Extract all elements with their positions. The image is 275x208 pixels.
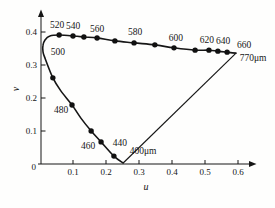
wavelength-label: 620 — [200, 35, 215, 45]
y-tick-label: 0.3 — [26, 60, 38, 70]
spectral-locus-curve — [43, 35, 236, 163]
wavelength-dot — [88, 128, 93, 133]
wavelength-label: 480 — [54, 105, 69, 115]
wavelength-label: 660 — [237, 40, 252, 50]
wavelength-dot — [56, 32, 61, 37]
x-tick-label: 0.5 — [199, 167, 211, 177]
wavelength-dot — [81, 34, 86, 39]
x-axis-title: u — [144, 181, 149, 192]
plot-layer: 0.10.20.30.40.50.60.10.20.30.40400μm4404… — [26, 10, 267, 177]
x-axis-arrow — [249, 161, 257, 167]
chromaticity-figure: 0.10.20.30.40.50.60.10.20.30.40400μm4404… — [0, 0, 275, 208]
x-tick-label: 0.6 — [232, 167, 244, 177]
x-tick-label: 0.1 — [67, 167, 78, 177]
wavelength-label: 540 — [66, 21, 81, 31]
x-tick-label: 0.3 — [133, 167, 145, 177]
wavelength-label: 500 — [51, 47, 66, 57]
wavelength-dot — [94, 35, 99, 40]
wavelength-dot — [192, 47, 197, 52]
y-tick-label: 0.2 — [26, 93, 37, 103]
wavelength-label: 580 — [128, 27, 143, 37]
wavelength-dot — [152, 42, 157, 47]
x-tick-label: 0.2 — [100, 167, 111, 177]
wavelength-dot — [131, 40, 136, 45]
wavelength-dot — [112, 38, 117, 43]
wavelength-label: 600 — [169, 33, 184, 43]
x-tick-label: 0.4 — [166, 167, 178, 177]
wavelength-dot — [50, 75, 55, 80]
wavelength-dot — [171, 45, 176, 50]
wavelength-dot — [215, 48, 220, 53]
wavelength-dot — [111, 153, 116, 158]
wavelength-label: 520 — [50, 20, 65, 30]
wavelength-dot — [70, 33, 75, 38]
wavelength-label: 560 — [90, 24, 105, 34]
wavelength-dot — [69, 102, 74, 107]
wavelength-dot — [98, 139, 103, 144]
wavelength-label: 400μm — [130, 146, 157, 156]
wavelength-label: 440 — [113, 138, 128, 148]
wavelength-label: 460 — [81, 141, 96, 151]
chromaticity-diagram-svg: 0.10.20.30.40.50.60.10.20.30.40400μm4404… — [0, 0, 275, 208]
y-tick-label: 0.4 — [26, 27, 38, 37]
y-axis-title: v — [10, 86, 21, 91]
y-tick-label: 0.1 — [26, 126, 37, 136]
y-axis-arrow — [38, 10, 44, 18]
wavelength-label: 640 — [216, 36, 231, 46]
wavelength-dot — [206, 47, 211, 52]
wavelength-dot — [224, 49, 229, 54]
annotation-label: 770μm — [240, 53, 267, 63]
origin-label: 0 — [32, 162, 37, 172]
